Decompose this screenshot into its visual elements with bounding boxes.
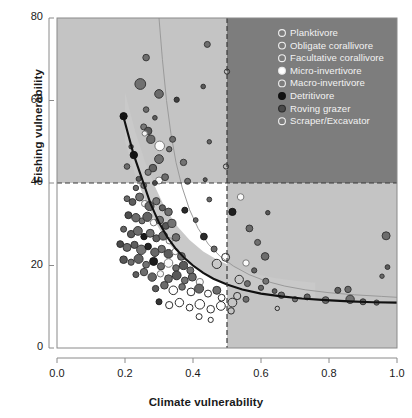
legend-marker[interactable]: [279, 67, 286, 74]
data-point: [143, 107, 149, 113]
legend-marker[interactable]: [279, 105, 286, 112]
data-point: [237, 194, 244, 201]
data-point: [143, 212, 152, 221]
data-point: [117, 241, 124, 248]
data-point: [172, 271, 181, 280]
data-point: [193, 218, 198, 223]
data-point: [182, 207, 188, 213]
data-point: [263, 278, 269, 284]
data-point: [135, 79, 146, 90]
data-point: [123, 243, 131, 251]
data-point: [380, 274, 384, 278]
x-tick-label: 0.6: [241, 367, 281, 379]
data-point: [201, 233, 208, 240]
legend-label[interactable]: Planktivore: [290, 27, 338, 38]
data-point: [167, 147, 172, 152]
data-point: [179, 261, 187, 269]
data-point: [155, 90, 164, 99]
y-tick-label: 0: [9, 340, 43, 352]
data-point: [156, 299, 162, 305]
y-axis-label: Fishing vulnerability: [32, 26, 44, 226]
x-tick-label: 0.4: [173, 367, 213, 379]
data-point: [143, 54, 150, 61]
data-point: [129, 199, 136, 206]
data-point: [181, 277, 188, 284]
data-point: [128, 259, 134, 265]
data-point: [120, 256, 128, 264]
legend-label[interactable]: Macro-invertivore: [290, 77, 365, 88]
y-axis: [49, 18, 54, 348]
legend-marker[interactable]: [279, 93, 286, 100]
data-point: [150, 257, 158, 265]
data-point: [229, 208, 236, 215]
data-point: [134, 227, 143, 236]
quadrant-lower-right: [227, 183, 397, 348]
data-point: [147, 135, 155, 143]
data-point: [258, 285, 263, 290]
data-point: [195, 284, 204, 293]
y-tick-label: 80: [9, 10, 43, 22]
data-point: [272, 289, 277, 294]
data-point: [157, 271, 163, 277]
x-tick-label: 0.0: [37, 367, 77, 379]
data-point: [180, 159, 186, 165]
data-point: [145, 169, 151, 175]
data-point: [143, 261, 150, 268]
x-axis: [57, 358, 397, 363]
data-point: [244, 281, 250, 287]
legend-label[interactable]: Detritivore: [290, 90, 334, 101]
data-point: [211, 246, 217, 252]
data-point: [174, 97, 179, 102]
data-point: [165, 208, 173, 216]
data-point: [133, 272, 139, 278]
data-point: [246, 225, 253, 232]
data-point: [203, 178, 207, 182]
legend-label[interactable]: Obligate corallivore: [290, 40, 373, 51]
data-point: [213, 286, 221, 294]
x-tick-label: 1.0: [377, 367, 412, 379]
data-point: [188, 273, 196, 281]
data-point: [153, 116, 158, 121]
data-point: [201, 84, 206, 89]
data-point: [124, 164, 130, 170]
data-point: [136, 193, 144, 201]
data-point: [255, 239, 261, 245]
x-axis-label: Climate vulnerability: [0, 396, 412, 408]
data-point: [164, 259, 173, 268]
legend-label[interactable]: Scraper/Excavator: [290, 115, 370, 126]
data-point: [121, 226, 127, 232]
data-point: [243, 296, 249, 302]
legend-label[interactable]: Facultative corallivore: [290, 52, 384, 63]
data-point: [162, 174, 169, 181]
data-point: [172, 234, 180, 242]
data-point: [140, 268, 147, 275]
data-point: [243, 260, 249, 266]
data-point: [179, 284, 186, 291]
data-point: [335, 287, 341, 293]
data-point: [345, 286, 351, 292]
data-point: [159, 205, 165, 211]
data-point: [173, 265, 180, 272]
y-tick-label: 60: [9, 93, 43, 105]
y-tick-label: 40: [9, 175, 43, 187]
data-point: [252, 268, 257, 273]
data-point: [125, 212, 132, 219]
data-point: [382, 232, 390, 240]
data-point: [204, 41, 210, 47]
data-point: [152, 285, 158, 291]
data-point: [153, 198, 160, 205]
data-point: [157, 263, 164, 270]
legend-label[interactable]: Micro-invertivore: [290, 65, 362, 76]
x-tick-label: 0.2: [105, 367, 145, 379]
data-point: [142, 131, 147, 136]
data-point: [170, 136, 176, 142]
legend-label[interactable]: Roving grazer: [290, 103, 350, 114]
data-point: [168, 219, 176, 227]
data-point: [148, 273, 156, 281]
data-point: [134, 254, 143, 263]
data-point: [155, 155, 164, 164]
y-tick-label: 20: [9, 258, 43, 270]
data-point: [385, 265, 390, 270]
data-point: [161, 282, 169, 290]
x-tick-label: 0.8: [309, 367, 349, 379]
